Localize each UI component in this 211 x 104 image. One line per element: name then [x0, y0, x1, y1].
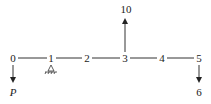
- load-0-label: P: [9, 86, 17, 98]
- node-5-label: 5: [196, 52, 202, 64]
- node-1-label: 1: [48, 52, 54, 64]
- node-4-label: 4: [159, 52, 165, 64]
- node-0-label: 0: [10, 52, 16, 64]
- node-3-label: 3: [122, 52, 128, 64]
- beam-diagram: 0 1 2 3 4 5 P 10 6: [0, 0, 211, 104]
- load-5-label: 6: [196, 86, 202, 98]
- pin-support-icon: [45, 65, 57, 74]
- load-3-label: 10: [121, 3, 133, 15]
- node-2-label: 2: [84, 52, 90, 64]
